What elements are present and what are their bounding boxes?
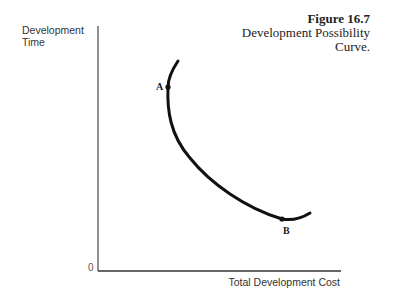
point-a-label: A [156,81,163,92]
x-axis-label: Total Development Cost [229,276,340,288]
possibility-curve [168,61,310,220]
chart-plot [0,0,403,301]
point-b-label: B [283,225,290,236]
origin-label: 0 [88,262,94,273]
point-a-marker [165,84,170,89]
point-b-marker [279,216,284,221]
